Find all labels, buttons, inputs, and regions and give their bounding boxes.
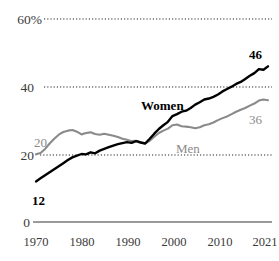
series-annotation-women: Women [141, 99, 184, 112]
y-tick-20: 20 [8, 149, 34, 163]
y-tick-40: 40 [8, 81, 34, 95]
line-chart: 60% 40 20 0 1970 1980 1990 2000 2010 202… [0, 0, 279, 261]
men-start-value: 20 [34, 136, 47, 149]
x-tick-2021: 2021 [241, 236, 279, 249]
x-tick-2010: 2010 [196, 236, 244, 249]
women-end-value: 46 [249, 48, 262, 61]
men-end-value: 36 [249, 113, 262, 126]
series-line-women [36, 66, 268, 181]
series-annotation-men: Men [176, 142, 200, 155]
women-start-value: 12 [32, 194, 45, 207]
x-tick-1980: 1980 [58, 236, 106, 249]
chart-plot-area [0, 0, 279, 261]
x-tick-1970: 1970 [12, 236, 60, 249]
y-tick-60: 60% [8, 13, 42, 27]
x-tick-2000: 2000 [150, 236, 198, 249]
x-tick-1990: 1990 [104, 236, 152, 249]
y-tick-0: 0 [8, 216, 30, 230]
